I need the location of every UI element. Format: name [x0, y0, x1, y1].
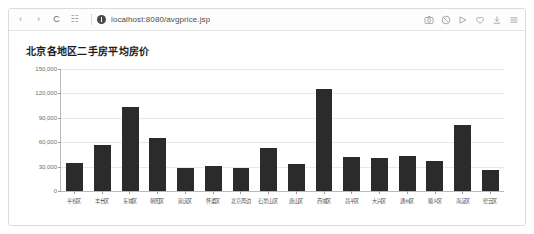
x-tick-mark	[379, 191, 380, 194]
bar-slot	[393, 69, 421, 191]
x-tick-slot: 石景山区	[254, 192, 282, 205]
browser-window: ‹ › C ☷ localhost:8080/avgprice.jsp	[8, 8, 526, 226]
x-tick-mark	[129, 191, 130, 194]
bar-slot	[421, 69, 449, 191]
x-tick-slot: 延庆区	[171, 192, 199, 205]
x-tick-label: 延庆区	[172, 197, 199, 205]
x-tick-label: 东城区	[116, 197, 143, 205]
x-tick-label: 顺义区	[421, 197, 448, 205]
x-tick-mark	[185, 191, 186, 194]
y-tick-label: 60,000	[39, 139, 57, 145]
bar-chart: 030,00060,00090,000120,000150,000 平谷区丰台区…	[26, 65, 506, 217]
x-tick-slot: 东城区	[116, 192, 144, 205]
bar[interactable]	[343, 157, 360, 191]
bar[interactable]	[122, 107, 139, 191]
bar-slot	[89, 69, 117, 191]
address-bar[interactable]: localhost:8080/avgprice.jsp	[97, 12, 418, 27]
navigation-buttons: ‹ › C ☷	[15, 13, 86, 26]
toolbar-icons	[418, 15, 519, 25]
bar[interactable]	[260, 148, 277, 191]
screenshot-icon[interactable]	[424, 15, 434, 25]
x-tick-slot: 大兴区	[365, 192, 393, 205]
bar[interactable]	[233, 168, 250, 191]
chart-bars	[61, 69, 504, 191]
x-tick-mark	[435, 191, 436, 194]
bar[interactable]	[94, 145, 111, 191]
bar-slot	[476, 69, 504, 191]
x-tick-slot: 海淀区	[449, 192, 477, 205]
bar[interactable]	[454, 125, 471, 191]
bar[interactable]	[205, 166, 222, 191]
x-tick-label: 大兴区	[366, 197, 393, 205]
x-tick-slot: 西城区	[310, 192, 338, 205]
bar-slot	[338, 69, 366, 191]
x-tick-slot: 北京周边	[227, 192, 255, 205]
x-tick-slot: 密云区	[476, 192, 504, 205]
chart-plot-area: 030,00060,00090,000120,000150,000	[60, 69, 504, 192]
chart-x-axis: 平谷区丰台区东城区朝阳区延庆区怀柔区北京周边石景山区唐山区西城区昌平区大兴区通州…	[60, 192, 504, 205]
x-tick-mark	[240, 191, 241, 194]
x-tick-mark	[324, 191, 325, 194]
x-tick-label: 朝阳区	[144, 197, 171, 205]
x-tick-slot: 顺义区	[421, 192, 449, 205]
x-tick-label: 唐山区	[283, 197, 310, 205]
x-tick-slot: 昌平区	[338, 192, 366, 205]
y-tick-label: 30,000	[39, 164, 57, 170]
y-tick-label: 90,000	[39, 115, 57, 121]
x-tick-slot: 朝阳区	[143, 192, 171, 205]
y-tick-label: 150,000	[35, 66, 57, 72]
bar[interactable]	[399, 156, 416, 191]
x-tick-label: 昌平区	[338, 197, 365, 205]
x-tick-label: 密云区	[477, 197, 504, 205]
bar[interactable]	[482, 170, 499, 191]
x-tick-mark	[296, 191, 297, 194]
x-tick-mark	[74, 191, 75, 194]
x-tick-mark	[102, 191, 103, 194]
bar-slot	[366, 69, 394, 191]
bar[interactable]	[149, 138, 166, 191]
x-tick-mark	[351, 191, 352, 194]
bar-slot	[61, 69, 89, 191]
bar-slot	[116, 69, 144, 191]
bar[interactable]	[177, 168, 194, 191]
adblock-icon[interactable]	[441, 15, 451, 25]
bar[interactable]	[426, 161, 443, 191]
forward-icon[interactable]: ›	[33, 13, 44, 26]
menu-icon[interactable]	[509, 15, 519, 25]
x-tick-label: 西城区	[310, 197, 337, 205]
url-text: localhost:8080/avgprice.jsp	[111, 15, 210, 24]
bar-slot	[227, 69, 255, 191]
bar-slot	[199, 69, 227, 191]
bar[interactable]	[316, 89, 333, 191]
bar-slot	[144, 69, 172, 191]
x-tick-mark	[462, 191, 463, 194]
apps-grid-icon[interactable]: ☷	[69, 13, 80, 26]
x-tick-mark	[490, 191, 491, 194]
x-tick-slot: 唐山区	[282, 192, 310, 205]
bar-slot	[255, 69, 283, 191]
bar-slot	[310, 69, 338, 191]
x-tick-mark	[407, 191, 408, 194]
x-tick-slot: 通州区	[393, 192, 421, 205]
x-tick-slot: 平谷区	[60, 192, 88, 205]
bar-slot	[283, 69, 311, 191]
x-tick-mark	[268, 191, 269, 194]
x-tick-mark	[157, 191, 158, 194]
translate-icon[interactable]	[458, 15, 468, 25]
x-tick-label: 怀柔区	[199, 197, 226, 205]
info-circle-icon[interactable]	[97, 15, 106, 24]
bar[interactable]	[66, 163, 83, 191]
x-tick-label: 石景山区	[255, 197, 282, 205]
bar[interactable]	[288, 164, 305, 191]
x-tick-label: 通州区	[394, 197, 421, 205]
x-tick-label: 丰台区	[88, 197, 115, 205]
reload-icon[interactable]: C	[51, 13, 62, 26]
x-tick-mark	[213, 191, 214, 194]
download-icon[interactable]	[492, 15, 502, 25]
back-icon[interactable]: ‹	[15, 13, 26, 26]
x-tick-label: 海淀区	[449, 197, 476, 205]
favorite-heart-icon[interactable]	[475, 15, 485, 25]
x-tick-slot: 怀柔区	[199, 192, 227, 205]
bar[interactable]	[371, 158, 388, 191]
x-tick-label: 北京周边	[227, 197, 254, 205]
